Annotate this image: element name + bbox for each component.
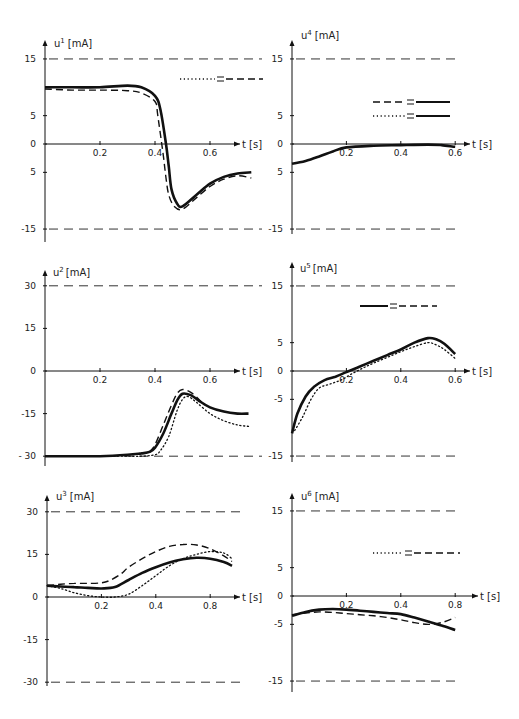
panel-u6-chart: u6[mA] t [s]1550-5-150.20.40.8 [268,490,500,692]
y-tick-label: 5 [277,111,283,121]
x-tick-label: 0.2 [93,148,107,158]
y-tick-label: 5 [277,563,283,573]
y-axis-label-u2: u2[mA] [53,266,90,278]
y-tick-label: 0 [30,139,36,149]
y-tick-label: -5 [274,394,283,404]
x-tick-label: 0.6 [203,375,218,385]
panel-u4-chart: u4[mA] t [s]15505-150.20.40.6 [268,29,492,234]
y-tick-label: 5 [277,167,283,177]
y-tick-label: 15 [272,506,283,516]
y-tick-label: 0 [30,366,36,376]
y-axis-label-u1: u1[mA] [54,37,92,49]
x-axis-label: t [s] [472,139,492,150]
x-axis-arrow-icon [464,369,470,374]
x-axis-arrow-icon [234,142,240,147]
y-tick-label: 30 [27,507,39,517]
y-axis-label-u3: u3[mA] [56,490,94,502]
y-axis-label-u5: u5[mA] [300,262,337,274]
series-solid-line [45,393,249,456]
x-tick-label: 0.4 [394,600,409,610]
y-axis-arrow-icon [45,495,50,501]
y-tick-label: -15 [268,676,283,686]
x-tick-label: 0.6 [448,375,463,385]
y-tick-label: - 30 [18,451,36,461]
series-dotted-line [114,396,249,456]
y-tick-label: 0 [277,139,283,149]
y-tick-label: 15 [27,549,38,559]
panel-u1-chart: u1[mA] t [s]15505-150.20.40.6 [21,37,263,242]
x-tick-label: 0.4 [394,375,409,385]
y-tick-label: 0 [277,591,283,601]
y-tick-label: -15 [268,224,283,234]
y-tick-label: 15 [272,54,283,64]
panel-u3-chart: u3[mA] t [s]30150-15-300.20.40.8 [23,490,262,687]
x-tick-label: 0.2 [93,375,107,385]
y-tick-label: 0 [32,592,38,602]
series-dashed-line [47,544,232,585]
y-tick-label: 15 [25,323,36,333]
y-tick-label: 0 [277,366,283,376]
x-axis-label: t [s] [242,366,262,377]
y-axis-arrow-icon [290,493,295,499]
series-dotted-line [295,343,456,431]
series-solid-line [292,145,455,164]
panel-u5-chart: u5[mA] t [s]1550-5-150.20.40.6 [268,262,492,462]
series-solid-line [45,86,251,207]
x-axis-label: t [s] [480,591,500,602]
x-axis-arrow-icon [234,595,240,600]
y-tick-label: -15 [268,451,283,461]
y-axis-arrow-icon [290,262,295,268]
x-tick-label: 0.6 [203,148,218,158]
y-axis-arrow-icon [43,40,48,46]
x-tick-label: 0.6 [448,148,463,158]
x-tick-label: 0.8 [203,601,218,611]
y-axis-arrow-icon [290,40,295,46]
y-tick-label: -30 [23,677,38,687]
y-tick-label: 15 [272,281,283,291]
y-axis-label-u6: u6[mA] [301,490,339,502]
x-tick-label: 0.2 [94,601,108,611]
y-axis-label-u4: u4[mA] [301,29,339,41]
x-axis-label: t [s] [472,366,492,377]
figure-canvas: u1[mA] t [s]15505-150.20.40.6 u4[mA] t [… [0,0,519,719]
y-tick-label: -15 [21,409,36,419]
x-axis-arrow-icon [472,594,478,599]
x-tick-label: 0.8 [448,600,463,610]
y-tick-label: -15 [23,635,38,645]
x-tick-label: 0.4 [148,148,163,158]
x-axis-arrow-icon [464,142,470,147]
x-axis-label: t [s] [242,139,262,150]
x-axis-label: t [s] [242,592,262,603]
panel-u2-chart: u2[mA] t [s]30150-15- 300.20.40.6 [18,266,262,466]
y-tick-label: 5 [30,111,36,121]
series-solid-line [292,338,455,434]
y-tick-label: 30 [25,281,37,291]
x-axis-arrow-icon [234,369,240,374]
x-tick-label: 0.4 [149,601,164,611]
y-tick-label: 5 [30,167,36,177]
y-axis-arrow-icon [43,270,48,276]
x-tick-label: 0.4 [148,375,163,385]
y-tick-label: -15 [21,224,36,234]
y-tick-label: 15 [25,54,36,64]
y-tick-label: -5 [274,619,283,629]
y-tick-label: 5 [277,338,283,348]
x-tick-label: 0.4 [394,148,409,158]
